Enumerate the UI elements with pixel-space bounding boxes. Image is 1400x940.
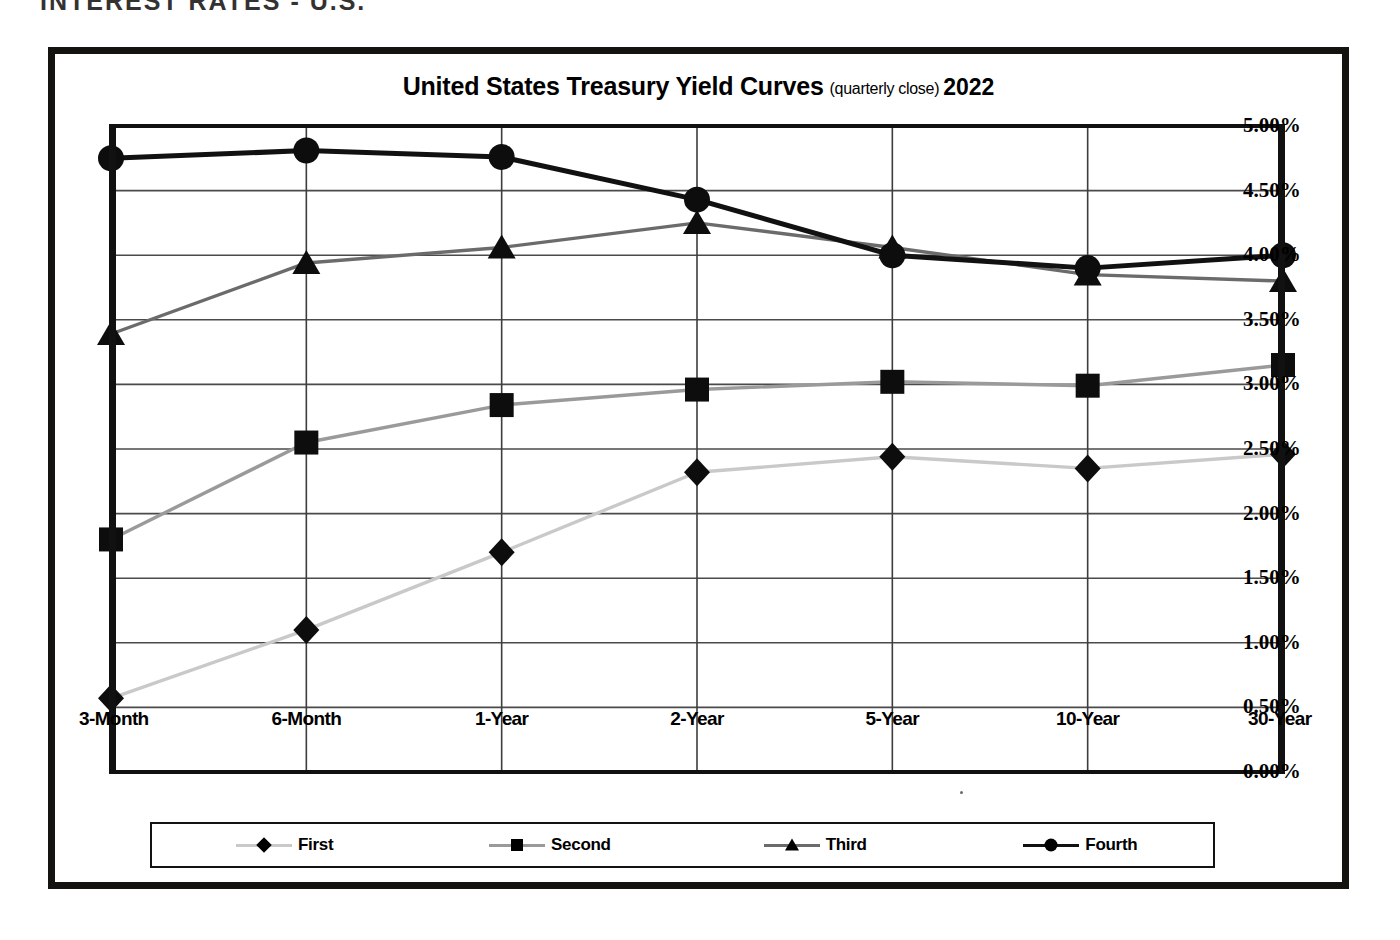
data-point-diamond bbox=[684, 458, 710, 486]
x-axis-tick-label: 5-Year bbox=[866, 708, 919, 730]
legend-swatch bbox=[489, 835, 545, 855]
y-axis-tick-label: 0.00% bbox=[1243, 759, 1301, 784]
data-point-diamond bbox=[293, 616, 319, 644]
speck-artifact bbox=[960, 791, 963, 794]
y-axis-tick-label: 5.00% bbox=[1243, 113, 1301, 138]
data-point-circle bbox=[879, 242, 905, 268]
y-axis-tick-label: 4.00% bbox=[1243, 242, 1301, 267]
circle-marker-icon bbox=[1045, 839, 1058, 852]
data-point-square bbox=[685, 378, 709, 402]
legend-swatch bbox=[1023, 835, 1079, 855]
data-point-diamond bbox=[1075, 454, 1101, 482]
data-point-diamond bbox=[879, 443, 905, 471]
chart-title-main: United States Treasury Yield Curves bbox=[403, 72, 824, 100]
legend-item-first[interactable]: First bbox=[152, 835, 417, 855]
data-point-triangle bbox=[683, 210, 711, 234]
data-point-square bbox=[880, 370, 904, 394]
chart-title-year: 2022 bbox=[943, 74, 994, 100]
legend-swatch bbox=[764, 835, 820, 855]
y-axis-tick-label: 1.50% bbox=[1243, 565, 1301, 590]
data-point-diamond bbox=[489, 538, 515, 566]
x-axis-tick-label: 10-Year bbox=[1056, 708, 1119, 730]
data-point-circle bbox=[684, 187, 710, 213]
data-point-circle bbox=[489, 144, 515, 170]
x-axis-tick-label: 30-Year bbox=[1248, 708, 1311, 730]
y-axis-tick-label: 2.00% bbox=[1243, 501, 1301, 526]
y-axis-tick-label: 2.50% bbox=[1243, 436, 1301, 461]
y-axis-tick-label: 3.00% bbox=[1243, 371, 1301, 396]
legend-label: Second bbox=[551, 835, 611, 855]
x-axis-tick-label: 1-Year bbox=[475, 708, 528, 730]
y-axis-tick-label: 4.50% bbox=[1243, 178, 1301, 203]
data-point-circle bbox=[1075, 255, 1101, 281]
x-axis-tick-label: 2-Year bbox=[670, 708, 723, 730]
x-axis-tick-label: 3-Month bbox=[79, 708, 149, 730]
legend-label: Fourth bbox=[1085, 835, 1137, 855]
legend-swatch bbox=[236, 835, 292, 855]
chart-frame: United States Treasury Yield Curves(quar… bbox=[48, 47, 1349, 889]
page-header: INTEREST RATES - U.S. bbox=[40, 0, 740, 13]
x-axis-tick-label: 6-Month bbox=[271, 708, 341, 730]
chart-title: United States Treasury Yield Curves(quar… bbox=[55, 72, 1342, 101]
data-point-square bbox=[294, 431, 318, 455]
page-header-text: INTEREST RATES - U.S. bbox=[40, 0, 740, 13]
chart-title-subtitle: (quarterly close) bbox=[830, 80, 940, 97]
plot-svg bbox=[111, 126, 1283, 772]
legend-row: FirstSecondThirdFourth bbox=[152, 824, 1213, 866]
plot-area bbox=[111, 126, 1283, 772]
data-point-square bbox=[490, 393, 514, 417]
y-axis-tick-label: 1.00% bbox=[1243, 630, 1301, 655]
y-axis-tick-label: 3.50% bbox=[1243, 307, 1301, 332]
legend-item-fourth[interactable]: Fourth bbox=[948, 835, 1213, 855]
square-marker-icon bbox=[511, 839, 523, 851]
legend-label: First bbox=[298, 835, 333, 855]
legend-label: Third bbox=[826, 835, 867, 855]
data-point-square bbox=[1076, 374, 1100, 398]
data-point-circle bbox=[293, 138, 319, 164]
legend-item-third[interactable]: Third bbox=[683, 835, 948, 855]
legend: FirstSecondThirdFourth bbox=[150, 822, 1215, 868]
chart-inner: United States Treasury Yield Curves(quar… bbox=[55, 54, 1342, 882]
triangle-marker-icon bbox=[785, 838, 799, 850]
diamond-marker-icon bbox=[256, 837, 272, 853]
legend-item-second[interactable]: Second bbox=[417, 835, 682, 855]
